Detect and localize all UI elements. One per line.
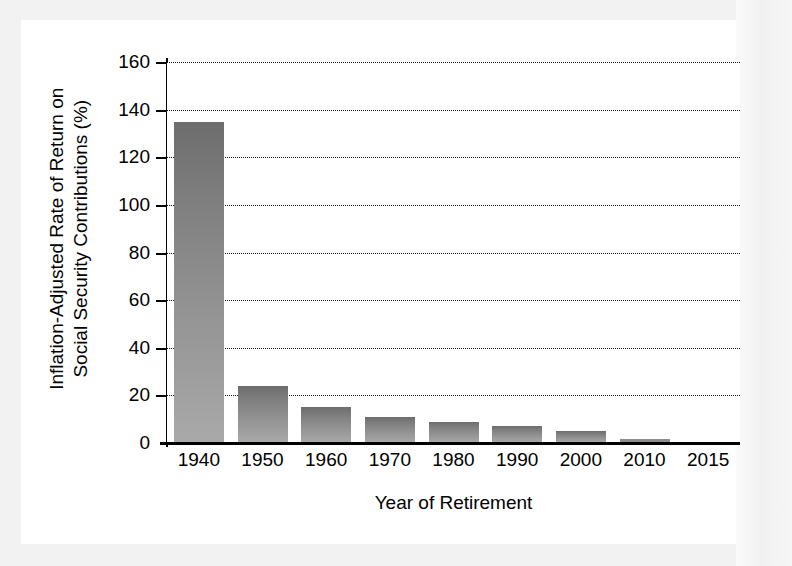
plot-area bbox=[167, 62, 740, 443]
y-tick-label: 100 bbox=[90, 195, 150, 214]
gridline bbox=[167, 110, 740, 111]
chart-figure: Inflation-Adjusted Rate of Return on Soc… bbox=[0, 0, 792, 566]
y-tick-label: 120 bbox=[90, 147, 150, 166]
y-tick-label: 60 bbox=[90, 290, 150, 309]
x-axis-spine bbox=[160, 442, 740, 445]
page-frame-bottom bbox=[0, 544, 792, 566]
bar bbox=[365, 417, 415, 443]
bar bbox=[492, 426, 542, 443]
gridline bbox=[167, 300, 740, 301]
gridline bbox=[167, 62, 740, 63]
page-frame-right bbox=[736, 0, 792, 566]
y-tick-label: 0 bbox=[90, 433, 150, 452]
y-axis-title-line-1: Inflation-Adjusted Rate of Return on bbox=[45, 29, 69, 449]
y-tick-label: 80 bbox=[90, 243, 150, 262]
y-tick-label: 20 bbox=[90, 385, 150, 404]
y-tick-label: 140 bbox=[90, 100, 150, 119]
bar bbox=[238, 386, 288, 443]
x-tick-label: 2015 bbox=[663, 450, 753, 469]
bar bbox=[301, 407, 351, 443]
x-axis-title: Year of Retirement bbox=[167, 492, 740, 514]
bar bbox=[429, 422, 479, 443]
y-tick-label: 40 bbox=[90, 338, 150, 357]
gridline bbox=[167, 205, 740, 206]
page-frame-left bbox=[0, 0, 21, 566]
page-frame-top bbox=[0, 0, 792, 20]
y-tick-label: 160 bbox=[90, 52, 150, 71]
y-axis-title: Inflation-Adjusted Rate of Return on Soc… bbox=[45, 29, 93, 449]
gridline bbox=[167, 253, 740, 254]
gridline bbox=[167, 157, 740, 158]
gridline bbox=[167, 348, 740, 349]
bar bbox=[174, 122, 224, 443]
